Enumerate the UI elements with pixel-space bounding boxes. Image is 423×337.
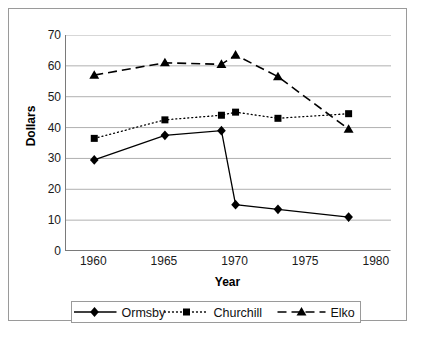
x-axis-tick-label: 1960 [70,255,116,268]
series-ormsby [90,126,353,222]
x-axis-tick-label: 1965 [141,255,187,268]
x-axis-tick-label: 1970 [212,255,258,268]
y-axis-tick-label: 0 [27,245,61,257]
data-series-layer [89,50,353,222]
y-axis-tick-label: 70 [27,29,61,41]
legend-item-ormsby: Ormsby [74,306,166,320]
x-axis-tick-label: 1975 [282,255,328,268]
series-line [94,131,348,217]
gridlines [66,35,391,251]
data-point-marker [90,155,99,165]
data-point-marker [274,115,281,122]
data-point-marker [91,135,98,142]
chart-legend: OrmsbyChurchillElko [71,301,361,323]
plot-svg [66,35,391,251]
legend-label: Churchill [214,306,263,320]
chart-frame: Dollars 010203040506070 1960196519701975… [8,8,407,321]
legend-item-elko: Elko [278,306,355,320]
data-point-marker [90,307,99,317]
y-axis-tick-label: 60 [27,60,61,72]
data-point-marker [344,124,354,133]
data-point-marker [231,50,241,59]
data-point-marker [161,130,170,140]
legend-label: Elko [331,306,355,320]
legend-item-churchill: Churchill [165,306,263,320]
series-elko [89,50,353,133]
data-point-marker [232,109,239,116]
x-axis-title: Year [65,275,390,289]
x-axis-tick-label: 1980 [353,255,399,268]
data-point-marker [216,59,226,68]
data-point-marker [218,112,225,119]
data-point-marker [183,309,190,316]
y-axis-tick-label: 50 [27,91,61,103]
legend-label: Ormsby [122,306,167,320]
legend-svg: OrmsbyChurchillElko [74,303,358,321]
data-point-marker [273,72,283,81]
y-axis-tick-label: 20 [27,183,61,195]
data-point-marker [161,116,168,123]
y-axis-tick-label: 30 [27,152,61,164]
x-axis-tick-labels: 19601965197019751980 [65,255,390,271]
plot-area [65,35,390,251]
y-axis-tick-label: 10 [27,214,61,226]
data-point-marker [231,200,240,210]
data-point-marker [274,204,283,214]
data-point-marker [345,110,352,117]
chart-screenshot: Dollars 010203040506070 1960196519701975… [0,0,423,337]
y-axis-tick-labels: 010203040506070 [23,35,61,251]
series-churchill [91,109,352,142]
y-axis-tick-label: 40 [27,122,61,134]
